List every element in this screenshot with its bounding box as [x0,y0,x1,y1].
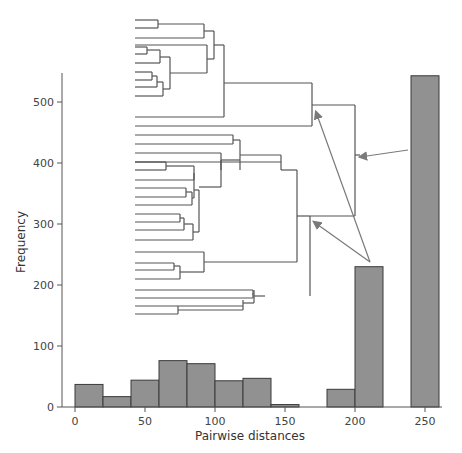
x-tick-label: 150 [275,415,296,428]
histogram-bar [131,380,159,407]
y-tick-label: 300 [33,218,54,231]
x-tick-label: 200 [345,415,366,428]
y-axis-label: Frequency [14,211,28,273]
histogram-bar [243,378,271,407]
x-tick-label: 250 [415,415,436,428]
y-tick-label: 0 [47,401,54,414]
histogram-bar [159,361,187,407]
histogram-chart: 0501001502002500100200300400500 Pairwise… [0,0,462,453]
x-axis-label: Pairwise distances [195,429,305,443]
histogram-bar [327,389,355,407]
x-tick-label: 50 [138,415,152,428]
annotation-arrow [314,222,370,262]
histogram-bar [355,267,383,407]
annotation-arrows [314,112,408,262]
histogram-bar [103,397,131,407]
y-tick-label: 100 [33,340,54,353]
y-tick-label: 500 [33,96,54,109]
annotation-arrow [316,112,370,262]
histogram-bar [75,384,103,407]
x-tick-label: 100 [205,415,226,428]
y-tick-label: 400 [33,157,54,170]
dendrogram-inset [135,20,360,314]
histogram-bar [215,381,243,407]
histogram-bar [187,364,215,407]
histogram-bar [411,76,439,407]
annotation-arrow [360,150,408,157]
x-tick-label: 0 [72,415,79,428]
y-tick-label: 200 [33,279,54,292]
